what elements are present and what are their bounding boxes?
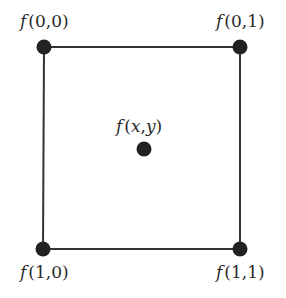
label-top-left: f(0,0)	[20, 13, 69, 30]
label-bottom-right: f(1,1)	[216, 264, 265, 281]
label-func: f	[20, 11, 26, 31]
label-center: f(x,y)	[116, 118, 162, 135]
label-paren-close: )	[156, 116, 163, 136]
node-dot-center	[137, 142, 152, 157]
label-args: (1,1)	[224, 262, 264, 282]
label-func: f	[116, 116, 122, 136]
label-bottom-left: f(1,0)	[20, 264, 69, 281]
node-dot-bottom-right	[233, 242, 248, 257]
label-func: f	[20, 262, 26, 282]
label-args: (0,1)	[224, 11, 264, 31]
label-args: (0,0)	[28, 11, 68, 31]
node-dot-bottom-left	[36, 242, 51, 257]
grid-svg	[0, 0, 286, 298]
node-dot-top-left	[37, 40, 52, 55]
label-top-right: f(0,1)	[216, 13, 265, 30]
node-dot-top-right	[233, 40, 248, 55]
label-paren-open: (	[124, 116, 131, 136]
label-args: (1,0)	[28, 262, 68, 282]
label-func: f	[216, 11, 222, 31]
label-var-y: y	[146, 116, 156, 136]
label-var-x: x	[131, 116, 141, 136]
diagram-canvas: f(0,0) f(0,1) f(x,y) f(1,0) f(1,1)	[0, 0, 286, 298]
edge-left	[43, 47, 44, 249]
label-func: f	[216, 262, 222, 282]
